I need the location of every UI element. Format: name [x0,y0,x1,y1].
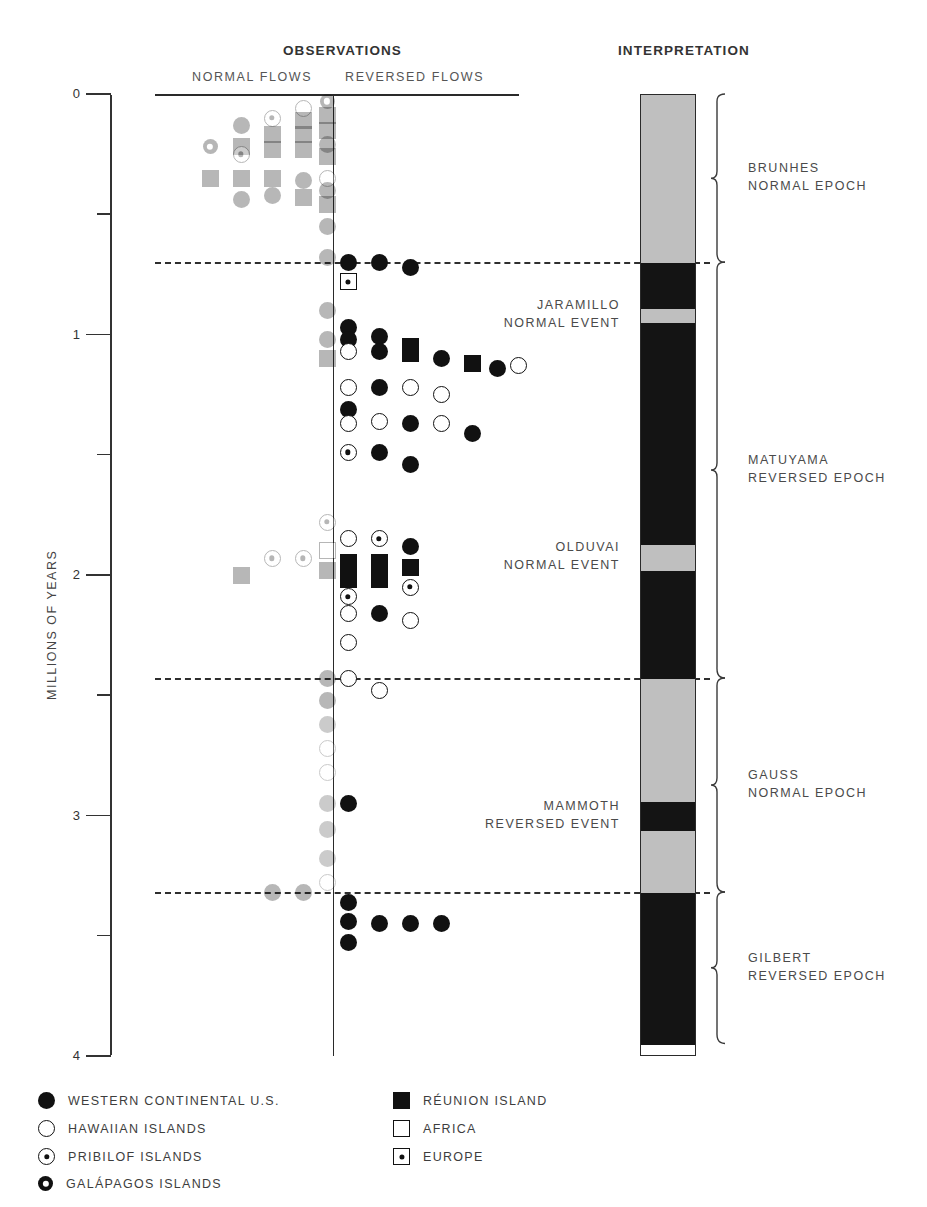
legend-label: AFRICA [423,1122,477,1136]
legend-symbol-circle-open [38,1120,55,1137]
legend-label: RÉUNION ISLAND [423,1094,547,1108]
legend-label: PRIBILOF ISLANDS [68,1150,203,1164]
legend-swatch [38,1176,53,1191]
legend-swatch [393,1120,410,1137]
legend-symbol-square-open [393,1120,410,1137]
legend-swatch [38,1120,55,1137]
legend-swatch [393,1148,410,1165]
legend-item: EUROPE [393,1148,484,1165]
legend: WESTERN CONTINENTAL U.S.HAWAIIAN ISLANDS… [0,0,927,1207]
legend-swatch [38,1092,55,1109]
legend-item: GALÁPAGOS ISLANDS [38,1176,222,1191]
legend-label: WESTERN CONTINENTAL U.S. [68,1094,280,1108]
legend-item: WESTERN CONTINENTAL U.S. [38,1092,280,1109]
legend-item: PRIBILOF ISLANDS [38,1148,203,1165]
figure-root: OBSERVATIONS INTERPRETATION NORMAL FLOWS… [0,0,927,1207]
legend-item: HAWAIIAN ISLANDS [38,1120,207,1137]
legend-label: HAWAIIAN ISLANDS [68,1122,207,1136]
legend-label: GALÁPAGOS ISLANDS [66,1177,222,1191]
legend-symbol-circle-filled [38,1092,55,1109]
legend-symbol-square-filled [393,1092,410,1109]
legend-item: AFRICA [393,1120,477,1137]
legend-label: EUROPE [423,1150,484,1164]
legend-symbol-circle-dot [38,1148,55,1165]
legend-swatch [393,1092,410,1109]
legend-swatch [38,1148,55,1165]
legend-symbol-square-dot [393,1148,410,1165]
legend-item: RÉUNION ISLAND [393,1092,547,1109]
legend-symbol-circle-ring [38,1176,53,1191]
